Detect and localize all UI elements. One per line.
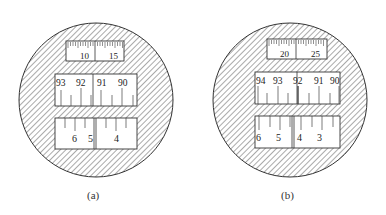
bottom-scale-a-label-2: 4	[114, 133, 119, 144]
bottom-scale-b-label-1: 5	[276, 132, 281, 143]
panel-a: 10 15 93 92 91 90	[19, 23, 173, 177]
middle-scale-a-label-3: 90	[118, 78, 128, 88]
caption-a: (a)	[87, 189, 99, 201]
middle-scale-a-label-1: 92	[76, 78, 86, 88]
middle-scale-a: 93 92 91 90	[55, 74, 137, 106]
middle-scale-a-label-2: 91	[97, 78, 107, 88]
top-scale-b: 20 25	[267, 39, 327, 59]
middle-scale-b-label-3: 91	[314, 76, 324, 86]
bottom-scale-b-label-3: 3	[317, 132, 322, 143]
caption-b: (b)	[281, 189, 294, 201]
bottom-scale-a: 6 5 4	[55, 118, 137, 149]
top-scale-a: 10 15	[66, 41, 124, 61]
panel-b: 20 25 94 93 92 91 90	[213, 23, 367, 177]
bottom-scale-a-label-1: 5	[88, 133, 93, 144]
middle-scale-b-label-0: 94	[256, 76, 266, 86]
bottom-scale-b-label-2: 4	[297, 132, 302, 143]
top-scale-b-label-1: 25	[311, 49, 321, 59]
middle-scale-b-label-4: 90	[330, 76, 340, 86]
bottom-scale-a-label-0: 6	[72, 133, 77, 144]
middle-scale-b-label-2: 92	[293, 76, 303, 86]
bottom-scale-b: 6 5 4 3	[255, 116, 340, 148]
top-scale-a-label-0: 10	[80, 51, 90, 61]
bottom-scale-b-label-0: 6	[256, 132, 261, 143]
top-scale-b-label-0: 20	[280, 49, 290, 59]
middle-scale-b: 94 93 92 91 90	[255, 72, 340, 104]
middle-scale-b-label-1: 93	[273, 76, 283, 86]
figure-canvas: 10 15 93 92 91 90	[0, 0, 386, 215]
middle-scale-a-label-0: 93	[56, 78, 66, 88]
top-scale-a-label-1: 15	[109, 51, 119, 61]
